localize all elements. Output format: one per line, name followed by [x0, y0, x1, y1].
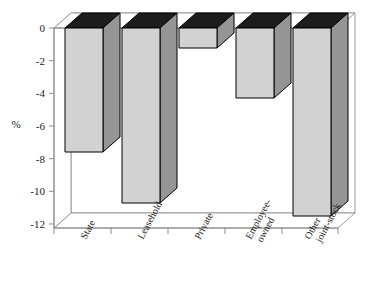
- bar-side-face: [160, 13, 177, 203]
- chart-container: 0 -2 -4 -6 -8 -10 -12 %: [0, 0, 368, 289]
- bar-other-joint-stock[interactable]: [293, 13, 348, 216]
- bar-state[interactable]: [65, 13, 120, 152]
- bar-front-face: [65, 28, 103, 152]
- y-tick-label-1: -2: [36, 55, 45, 67]
- y-axis-title: %: [11, 118, 20, 130]
- bar-front-face: [293, 28, 331, 216]
- bar-front-face: [236, 28, 274, 98]
- y-tick-label-5: -10: [30, 185, 45, 197]
- bar-leasehold[interactable]: [122, 13, 177, 203]
- bar-side-face: [331, 13, 348, 216]
- y-tick-label-2: -4: [36, 87, 46, 99]
- bar-chart-3d: 0 -2 -4 -6 -8 -10 -12 %: [0, 0, 368, 289]
- bar-side-face: [274, 13, 291, 98]
- y-tick-label-4: -8: [36, 153, 46, 165]
- y-tick-label-0: 0: [40, 22, 46, 34]
- bar-employee-owned[interactable]: [236, 13, 291, 98]
- y-tick-label-6: -12: [30, 218, 45, 230]
- cropped-title: [118, 0, 358, 7]
- bar-front-face: [122, 28, 160, 203]
- y-tick-label-3: -6: [36, 120, 46, 132]
- bar-front-face: [179, 28, 217, 48]
- y-axis: 0 -2 -4 -6 -8 -10 -12 %: [11, 22, 54, 230]
- bar-side-face: [103, 13, 120, 152]
